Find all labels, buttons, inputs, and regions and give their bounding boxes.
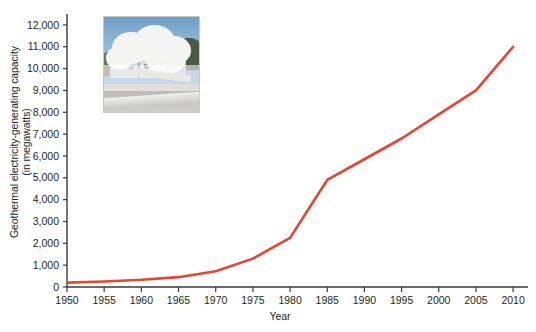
x-tick-label: 2005 <box>464 294 488 306</box>
x-axis-title-text: Year <box>269 310 290 322</box>
x-tick-label: 2010 <box>501 294 525 306</box>
x-tick-label: 1960 <box>130 294 154 306</box>
x-tick-label: 1975 <box>241 294 265 306</box>
x-tick-label: 1965 <box>167 294 191 306</box>
x-tick-label: 1970 <box>204 294 228 306</box>
y-tick-label: 2,000 <box>33 237 59 249</box>
y-tick-label: 9,000 <box>33 84 59 96</box>
x-tick-label: 1995 <box>390 294 414 306</box>
chart-figure: Geothermal electricity-generating capaci… <box>0 0 536 332</box>
y-tick-label: 7,000 <box>33 128 59 140</box>
y-tick-label: 0 <box>53 281 59 293</box>
y-tick-label: 1,000 <box>33 259 59 271</box>
y-tick-label: 5,000 <box>33 171 59 183</box>
x-tick-label: 1980 <box>278 294 302 306</box>
x-tick-label: 2000 <box>427 294 451 306</box>
plot-area: 01,0002,0003,0004,0005,0006,0007,0008,00… <box>0 0 536 332</box>
x-tick-label: 1950 <box>55 294 79 306</box>
y-tick-label: 8,000 <box>33 106 59 118</box>
y-tick-label: 3,000 <box>33 215 59 227</box>
x-tick-label: 1955 <box>92 294 116 306</box>
x-tick-label: 1985 <box>316 294 340 306</box>
y-tick-label: 12,000 <box>27 19 59 31</box>
y-tick-label: 10,000 <box>27 62 59 74</box>
y-tick-label: 6,000 <box>33 150 59 162</box>
x-tick-label: 1990 <box>353 294 377 306</box>
x-axis-title: Year <box>0 310 536 322</box>
y-tick-label: 11,000 <box>28 40 59 52</box>
data-series-line <box>67 47 513 283</box>
x-axis-ticks: 1950195519601965197019751980198519901995… <box>55 287 525 306</box>
y-tick-label: 4,000 <box>33 193 59 205</box>
y-axis-ticks: 01,0002,0003,0004,0005,0006,0007,0008,00… <box>27 19 67 293</box>
